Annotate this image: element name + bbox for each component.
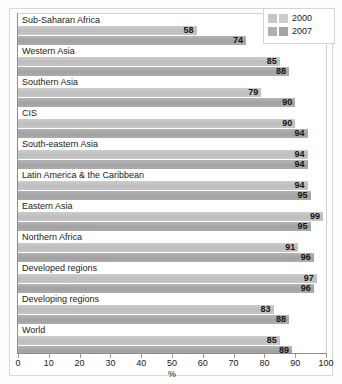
category-label: Eastern Asia — [18, 200, 326, 212]
bar-row: 99 — [18, 212, 326, 221]
legend-label: 2007 — [292, 25, 312, 38]
bar-row: 88 — [18, 67, 326, 76]
bar-value-label: 95 — [298, 221, 311, 231]
bar-2000 — [18, 274, 317, 283]
bar-2000 — [18, 57, 280, 66]
bar-value-label: 83 — [261, 304, 274, 314]
bar-value-label: 88 — [276, 66, 289, 76]
bar-2000 — [18, 305, 274, 314]
legend-label: 2000 — [292, 12, 312, 25]
bar-row: 94 — [18, 129, 326, 138]
x-tick-label: 60 — [198, 358, 208, 368]
bar-2000 — [18, 88, 261, 97]
chart-figure: Sub-Saharan Africa5874Western Asia8588So… — [0, 0, 342, 384]
bar-row: 85 — [18, 336, 326, 345]
category-label: Northern Africa — [18, 231, 326, 243]
bar-value-label: 91 — [285, 242, 298, 252]
bar-row: 94 — [18, 150, 326, 159]
bar-2007 — [18, 129, 308, 138]
legend-swatch-icon — [279, 14, 288, 23]
legend-item-2000[interactable]: 2000 — [268, 12, 330, 25]
legend-item-2007[interactable]: 2007 — [268, 25, 330, 38]
bar-group: Northern Africa9196 — [18, 231, 326, 262]
bar-value-label: 94 — [295, 159, 308, 169]
x-axis: 0102030405060708090100% — [17, 354, 327, 384]
bar-row: 95 — [18, 191, 326, 200]
bar-2007 — [18, 191, 311, 200]
category-label: South-eastern Asia — [18, 138, 326, 150]
category-label: World — [18, 324, 326, 336]
bar-row: 94 — [18, 181, 326, 190]
x-axis-title: % — [168, 369, 176, 379]
bar-value-label: 94 — [295, 180, 308, 190]
bar-row: 90 — [18, 119, 326, 128]
legend-swatch-icon — [268, 27, 277, 36]
bar-row: 83 — [18, 305, 326, 314]
bar-2007 — [18, 346, 292, 354]
category-label: Southern Asia — [18, 76, 326, 88]
bar-group: World8589 — [18, 324, 326, 354]
bar-group: South-eastern Asia9494 — [18, 138, 326, 169]
bar-value-label: 94 — [295, 149, 308, 159]
legend-swatch-group — [268, 14, 288, 23]
x-tick-label: 0 — [15, 358, 20, 368]
bar-row: 95 — [18, 222, 326, 231]
bar-value-label: 79 — [248, 87, 261, 97]
plot-area: Sub-Saharan Africa5874Western Asia8588So… — [17, 13, 327, 354]
category-label: Latin America & the Caribbean — [18, 169, 326, 181]
bar-row: 96 — [18, 253, 326, 262]
bar-2007 — [18, 98, 295, 107]
bar-row: 88 — [18, 315, 326, 324]
bar-row: 97 — [18, 274, 326, 283]
x-tick-label: 70 — [229, 358, 239, 368]
bar-row: 91 — [18, 243, 326, 252]
x-tick-label: 50 — [167, 358, 177, 368]
bar-group: Western Asia8588 — [18, 45, 326, 76]
bar-value-label: 97 — [304, 273, 317, 283]
x-tick-label: 10 — [44, 358, 54, 368]
bar-2007 — [18, 222, 311, 231]
bar-value-label: 95 — [298, 190, 311, 200]
bar-row: 79 — [18, 88, 326, 97]
bar-value-label: 96 — [301, 252, 314, 262]
x-tick-label: 100 — [318, 358, 333, 368]
x-tick-label: 80 — [259, 358, 269, 368]
x-tick-label: 20 — [75, 358, 85, 368]
bar-value-label: 96 — [301, 283, 314, 293]
category-label: Western Asia — [18, 45, 326, 57]
bar-row: 96 — [18, 284, 326, 293]
x-tick-label: 90 — [290, 358, 300, 368]
bar-2000 — [18, 243, 298, 252]
legend-swatch-icon — [268, 14, 277, 23]
bar-2007 — [18, 315, 289, 324]
bar-row: 94 — [18, 160, 326, 169]
legend-swatch-icon — [279, 27, 288, 36]
bar-2007 — [18, 160, 308, 169]
bar-row: 89 — [18, 346, 326, 354]
bar-row: 90 — [18, 98, 326, 107]
bar-value-label: 90 — [282, 118, 295, 128]
bar-value-label: 58 — [184, 25, 197, 35]
category-label: Developed regions — [18, 262, 326, 274]
bar-value-label: 99 — [310, 211, 323, 221]
bar-2000 — [18, 181, 308, 190]
bar-group: Developed regions9796 — [18, 262, 326, 293]
bar-value-label: 74 — [233, 35, 246, 45]
bar-2007 — [18, 253, 314, 262]
category-label: CIS — [18, 107, 326, 119]
bar-value-label: 94 — [295, 128, 308, 138]
bar-2000 — [18, 119, 295, 128]
category-label: Developing regions — [18, 293, 326, 305]
bar-group: Developing regions8388 — [18, 293, 326, 324]
bar-group: CIS9094 — [18, 107, 326, 138]
bar-value-label: 85 — [267, 56, 280, 66]
bar-2007 — [18, 36, 246, 45]
bar-2000 — [18, 26, 197, 35]
bar-row: 85 — [18, 57, 326, 66]
bar-2000 — [18, 336, 280, 345]
bar-value-label: 85 — [267, 335, 280, 345]
bar-value-label: 88 — [276, 314, 289, 324]
bar-value-label: 89 — [279, 345, 292, 354]
bar-2000 — [18, 150, 308, 159]
bar-value-label: 90 — [282, 97, 295, 107]
